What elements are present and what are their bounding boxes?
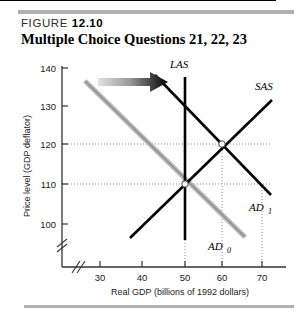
y-tick-label-120: 120: [40, 139, 56, 150]
x-tick-label-50: 50: [180, 272, 191, 283]
equilibrium-point-60-120: [219, 141, 225, 147]
figure-label-prefix: FIGURE: [21, 17, 68, 29]
x-tick-labels: 30 40 50 60 70: [95, 272, 268, 283]
curve-label-ad1: AD: [248, 201, 264, 213]
equilibrium-point-50-110: [182, 181, 188, 187]
guide-lines: [62, 78, 272, 267]
curve-ad0: [85, 81, 245, 237]
chart-plot-area: 140 130 120 110 100 30 40 50 60 70 Price…: [0, 54, 308, 299]
figure-number: 12.10: [72, 17, 103, 29]
y-axis-title: Price level (GDP deflator): [22, 115, 32, 217]
curve-label-ad0-subscript: 0: [227, 246, 231, 255]
x-axis-title: Real GDP (billions of 1992 dollars): [111, 287, 249, 297]
y-tick-label-100: 100: [40, 219, 56, 230]
bottom-rule-divider: [24, 305, 294, 308]
y-tick-label-110: 110: [41, 179, 56, 190]
x-tick-label-30: 30: [95, 272, 106, 283]
title-underline-divider: [0, 0, 276, 1]
shift-arrow-icon: [98, 72, 168, 92]
curve-ad0-band-dark: [85, 81, 245, 237]
chart-axes: [57, 66, 286, 273]
curve-label-ad0-group: AD 0: [207, 240, 231, 255]
y-tick-labels: 140 130 120 110 100: [40, 63, 56, 230]
curve-sas: [130, 100, 272, 238]
y-tick-label-140: 140: [40, 63, 56, 74]
curve-label-ad1-subscript: 1: [268, 207, 272, 216]
x-tick-label-40: 40: [137, 272, 148, 283]
figure-container: FIGURE 12.10 Multiple Choice Questions 2…: [0, 0, 308, 319]
top-rule-divider: [18, 10, 294, 14]
curve-label-las: LAS: [169, 58, 189, 70]
page-title: Multiple Choice Questions 21, 22, 23: [21, 31, 247, 48]
y-tick-label-130: 130: [40, 101, 56, 112]
figure-label: FIGURE 12.10: [21, 17, 103, 29]
x-tick-label-60: 60: [217, 272, 228, 283]
curve-label-ad1-group: AD 1: [248, 201, 272, 216]
curve-ad1: [155, 75, 271, 195]
x-tick-label-70: 70: [257, 272, 268, 283]
curve-label-sas: SAS: [255, 80, 273, 92]
curve-label-ad0: AD: [207, 240, 223, 252]
